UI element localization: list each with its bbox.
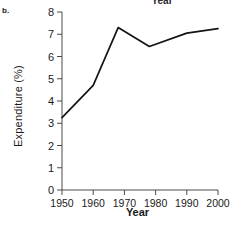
x-tick-label: 1990 xyxy=(175,197,199,209)
chart-panel: Year b. Expenditure (%) Year 01234567819… xyxy=(0,0,232,226)
x-tick-label: 1960 xyxy=(82,197,106,209)
y-tick-label: 8 xyxy=(48,6,54,18)
y-tick-label: 7 xyxy=(48,28,54,40)
y-tick-label: 1 xyxy=(48,162,54,174)
y-tick-label: 3 xyxy=(48,117,54,129)
y-tick-label: 0 xyxy=(48,184,54,196)
x-tick-label: 2000 xyxy=(206,197,230,209)
axis-lines xyxy=(62,12,218,190)
x-tick-label: 1980 xyxy=(144,197,168,209)
x-tick-label: 1970 xyxy=(113,197,137,209)
y-tick-label: 6 xyxy=(48,51,54,63)
line-chart-plot: 012345678195019601970198019902000 xyxy=(0,0,232,226)
y-tick-label: 4 xyxy=(48,95,54,107)
data-series-line xyxy=(62,28,218,118)
y-tick-label: 5 xyxy=(48,73,54,85)
y-tick-label: 2 xyxy=(48,140,54,152)
x-tick-label: 1950 xyxy=(50,197,74,209)
